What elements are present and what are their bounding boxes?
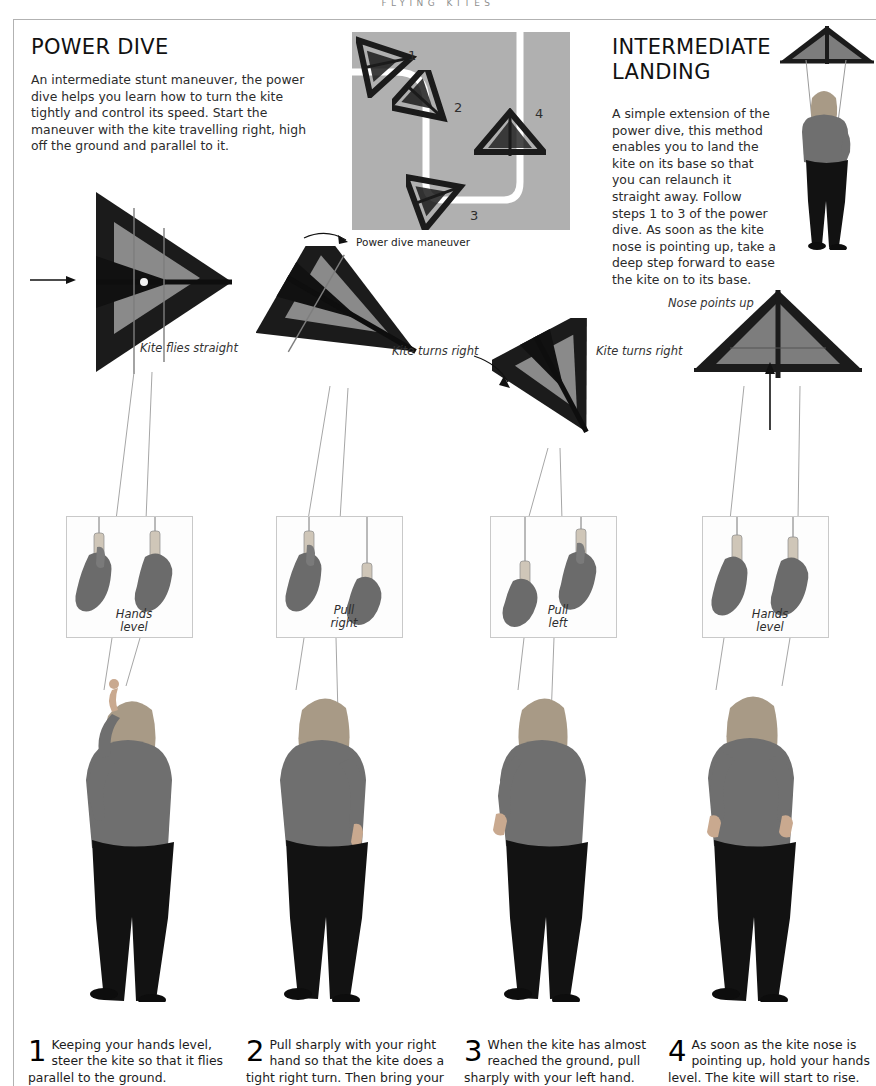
hand-label-3: Pull left [536, 604, 580, 630]
diagram-marker-1: 1 [408, 48, 416, 63]
hand-label-1-line2: level [112, 621, 156, 634]
hand-label-2-line2: right [322, 617, 366, 630]
step-3-text: When the kite has almost reached the gro… [464, 1037, 646, 1085]
annotation-kite-4: Nose points up [668, 296, 754, 310]
diagram-kite-2 [392, 70, 462, 140]
figure-top-right-flyer [772, 60, 876, 250]
title-line-2: Landing [612, 60, 792, 85]
kite-step-3 [492, 318, 622, 448]
step-1: 1Keeping your hands level, steer the kit… [28, 1037, 228, 1086]
intro-copy-power-dive: An intermediate stunt maneuver, the powe… [31, 72, 321, 155]
step-4-number: 4 [668, 1038, 686, 1064]
page-title-intermediate-landing: Intermediate Landing [612, 35, 792, 85]
title-line-1: Intermediate [612, 35, 792, 60]
step-4: 4As soon as the kite nose is pointing up… [668, 1037, 874, 1086]
step-2-number: 2 [246, 1038, 264, 1064]
figure-step-3 [468, 652, 618, 1002]
figure-step-2 [250, 652, 400, 1002]
hand-label-3-line2: left [536, 617, 580, 630]
hand-label-4-line2: level [748, 621, 792, 634]
step-1-number: 1 [28, 1038, 46, 1064]
figure-step-4 [678, 650, 828, 1002]
diagram-kite-3 [406, 160, 476, 230]
annotation-kite-3: Kite turns right [596, 344, 682, 358]
diagram-marker-2: 2 [454, 100, 462, 115]
hand-label-2: Pull right [322, 604, 366, 630]
intro-copy-intermediate-landing: A simple extension of the power dive, th… [612, 106, 776, 289]
page-title-power-dive: Power Dive [31, 35, 169, 60]
diagram-marker-4: 4 [535, 106, 543, 121]
annotation-kite-2: Kite turns right [392, 344, 478, 358]
kite-step-2 [256, 246, 436, 386]
step-3: 3When the kite has almost reached the gr… [464, 1037, 664, 1086]
step-1-text: Keeping your hands level, steer the kite… [28, 1037, 223, 1085]
step-2: 2Pull sharply with your right hand so th… [246, 1037, 446, 1086]
figure-step-1 [56, 650, 206, 1002]
hand-label-4: Hands level [748, 608, 792, 634]
page-rule-top [13, 19, 876, 20]
annotation-kite-1: Kite flies straight [140, 341, 238, 355]
power-dive-maneuver-diagram [352, 32, 570, 230]
step-4-text: As soon as the kite nose is pointing up,… [668, 1037, 870, 1085]
running-head: Flying Kites [0, 0, 876, 8]
page-rule-left [13, 19, 14, 1086]
step-2-text: Pull sharply with your right hand so tha… [246, 1037, 444, 1085]
diagram-marker-3: 3 [470, 208, 478, 223]
hand-label-1: Hands level [112, 608, 156, 634]
arrow-wind-direction-icon [28, 270, 78, 290]
step-3-number: 3 [464, 1038, 482, 1064]
